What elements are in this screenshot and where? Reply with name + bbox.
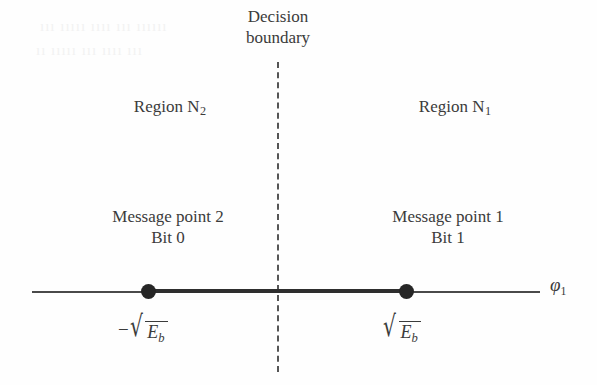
message-point-2-label-line2: Bit 0 (68, 227, 268, 248)
message-point-1-label-line2: Bit 1 (348, 227, 548, 248)
tick-label-positive-sqrt-eb: √ Eb (383, 311, 421, 343)
energy-symbol-left: E (147, 322, 158, 342)
radical-sign-icon: √ (130, 313, 143, 338)
decision-boundary-label-line2: boundary (178, 27, 378, 48)
energy-symbol-right: E (401, 322, 412, 342)
radical-group-left: √ Eb (130, 311, 168, 343)
decision-boundary-label-line1: Decision (248, 7, 308, 26)
radicand-left: Eb (145, 321, 167, 345)
message-point-2-dot (141, 284, 156, 299)
minus-sign: − (118, 311, 129, 339)
bpsk-signal-space-figure: ııı ııııı ıııı ııı ıııııı ıı ııııı ııı ı… (0, 0, 597, 385)
energy-subscript-right: b (412, 331, 418, 345)
region-n1-label-subscript: 1 (485, 104, 492, 118)
message-point-2-label-line1: Message point 2 (112, 207, 223, 226)
tick-label-negative-sqrt-eb: − √ Eb (118, 311, 168, 343)
radical-group-right: √ Eb (383, 311, 421, 343)
message-point-1-dot (399, 284, 414, 299)
message-point-2-label: Message point 2 Bit 0 (68, 206, 268, 248)
energy-subscript-left: b (158, 331, 164, 345)
phi-subscript: 1 (561, 285, 567, 298)
phi-glyph: φ (550, 274, 561, 295)
region-n2-label: Region N2 (80, 96, 260, 120)
region-n1-label-text: Region N (419, 97, 485, 116)
region-n1-label: Region N1 (365, 96, 545, 120)
region-n2-label-text: Region N (134, 97, 200, 116)
decision-boundary-label: Decision boundary (178, 6, 378, 48)
signal-segment-line (148, 289, 406, 293)
message-point-1-label-line1: Message point 1 (392, 207, 503, 226)
scan-bleed-artifact-row2: ıı ııııı ııı ıııı ııı (36, 42, 143, 59)
region-n2-label-subscript: 2 (200, 104, 207, 118)
scan-bleed-artifact-row1: ııı ııııı ıııı ııı ıııııı (40, 18, 168, 35)
radical-sign-icon: √ (383, 313, 396, 338)
decision-boundary-dashed-line (277, 62, 279, 372)
radicand-right: Eb (399, 321, 421, 345)
message-point-1-label: Message point 1 Bit 1 (348, 206, 548, 248)
phi1-axis-label: φ1 (550, 274, 566, 299)
